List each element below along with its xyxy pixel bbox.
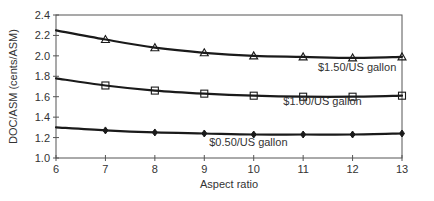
x-tick-label: 11 (297, 163, 308, 175)
data-point-diamond (103, 127, 108, 134)
x-tick-label: 13 (396, 163, 408, 175)
data-point-diamond (301, 131, 306, 138)
data-point-diamond (350, 131, 355, 138)
x-tick-label: 12 (346, 163, 358, 175)
y-tick-label: 1.2 (35, 132, 50, 144)
series-line (56, 30, 402, 58)
series-label: $1.50/US gallon (318, 61, 396, 73)
y-axis: 1.01.21.41.61.82.02.22.4 (35, 9, 59, 164)
y-tick-label: 2.4 (35, 9, 50, 21)
series-label: $0.50/US gallon (209, 136, 287, 148)
y-tick-label: 1.6 (35, 91, 50, 103)
series-group: $1.50/US gallon$1.00/US gallon$0.50/US g… (56, 30, 406, 148)
x-tick-label: 7 (102, 163, 108, 175)
y-tick-label: 1.0 (35, 152, 50, 164)
y-axis-title: DOC/ASM (cents/ASM) (7, 29, 19, 144)
series-line (56, 78, 402, 97)
y-tick-label: 2.2 (35, 29, 50, 41)
y-tick-label: 1.8 (35, 70, 50, 82)
data-point-diamond (202, 130, 207, 137)
x-tick-label: 6 (53, 163, 59, 175)
x-tick-label: 9 (201, 163, 207, 175)
series-label: $1.00/US gallon (283, 95, 361, 107)
data-point-diamond (152, 129, 157, 136)
y-tick-label: 2.0 (35, 50, 50, 62)
series-triangle: $1.50/US gallon (56, 30, 406, 72)
series-diamond: $0.50/US gallon (56, 127, 405, 148)
y-tick-label: 1.4 (35, 111, 50, 123)
x-tick-label: 10 (248, 163, 260, 175)
series-square: $1.00/US gallon (56, 78, 406, 107)
line-chart: 678910111213 1.01.21.41.61.82.02.22.4 $1… (0, 0, 434, 201)
x-axis-title: Aspect ratio (200, 178, 258, 190)
data-point-diamond (400, 130, 405, 137)
x-tick-label: 8 (152, 163, 158, 175)
